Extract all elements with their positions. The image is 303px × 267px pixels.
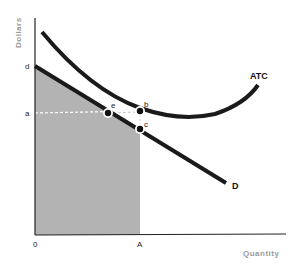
label-d: d	[25, 62, 29, 71]
point-c	[137, 126, 143, 132]
label-b: b	[144, 100, 149, 109]
label-a: a	[25, 109, 30, 118]
label-c: c	[144, 120, 148, 129]
point-b	[137, 108, 143, 114]
x-axis-title: Quantity	[243, 249, 279, 258]
label-origin: 0	[33, 240, 38, 249]
label-A: A	[137, 240, 143, 249]
diagram-canvas: e b c d a 0 A ATC D Dollars Quantity	[0, 0, 303, 267]
label-atc: ATC	[250, 71, 268, 81]
label-e: e	[111, 101, 116, 110]
y-axis-title: Dollars	[14, 17, 23, 48]
label-demand: D	[232, 181, 239, 191]
point-e	[105, 110, 111, 116]
shaded-revenue-area	[35, 66, 140, 235]
